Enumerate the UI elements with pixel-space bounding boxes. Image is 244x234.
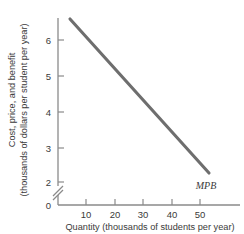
x-axis-title: Quantity (thousands of students per year… xyxy=(65,222,234,232)
chart-figure: 6 5 4 3 2 0 10 20 30 40 50 MPB Quantity … xyxy=(0,0,244,234)
y-origin-label-0: 0 xyxy=(46,200,51,211)
marginal-private-benefit-chart: 6 5 4 3 2 0 10 20 30 40 50 MPB Quantity … xyxy=(0,0,244,234)
y-tick-label-6: 6 xyxy=(46,35,51,46)
y-axis-title-line2: (thousands of dollars per student per ye… xyxy=(19,23,29,196)
x-tick-label-30: 30 xyxy=(138,209,149,220)
y-tick-label-5: 5 xyxy=(46,71,51,82)
x-tick-label-20: 20 xyxy=(110,209,121,220)
y-tick-label-4: 4 xyxy=(46,107,51,118)
mpb-curve xyxy=(70,19,209,173)
x-tick-label-50: 50 xyxy=(195,209,206,220)
x-tick-label-10: 10 xyxy=(81,209,92,220)
y-tick-label-2: 2 xyxy=(46,177,51,188)
mpb-curve-label: MPB xyxy=(195,180,217,191)
x-tick-label-40: 40 xyxy=(167,209,178,220)
y-tick-label-3: 3 xyxy=(46,143,51,154)
y-axis-title-line1: Cost, price, and benefit xyxy=(7,52,17,147)
